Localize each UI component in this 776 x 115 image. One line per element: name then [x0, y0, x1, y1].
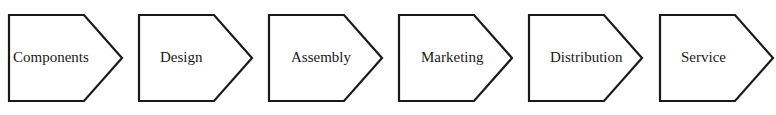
value-chain-diagram: [0, 0, 776, 115]
stage-components-label: Components: [13, 50, 89, 65]
stage-service-label: Service: [681, 50, 726, 65]
stage-distribution-label: Distribution: [550, 50, 623, 65]
stage-assembly-label: Assembly: [291, 50, 351, 65]
stage-marketing-label: Marketing: [421, 50, 483, 65]
stage-design-label: Design: [160, 50, 203, 65]
